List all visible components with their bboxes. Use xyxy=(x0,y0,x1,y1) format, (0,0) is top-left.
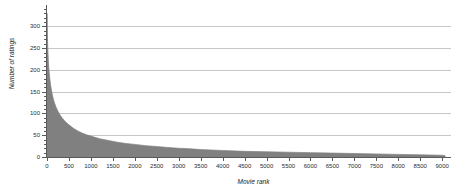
x-tick-4000 xyxy=(223,157,224,161)
x-tick-1000 xyxy=(91,157,92,161)
y-tick-label-250: 250 xyxy=(14,45,40,51)
y-tick-label-300: 300 xyxy=(14,23,40,29)
x-tick-2500 xyxy=(157,157,158,161)
y-tick-label-150: 150 xyxy=(14,89,40,95)
x-tick-2000 xyxy=(135,157,136,161)
x-tick-7500 xyxy=(376,157,377,161)
chart-figure: Number of ratings 050100150200250300 050… xyxy=(0,0,460,196)
x-axis-title: Movie rank xyxy=(0,178,460,185)
x-tick-5000 xyxy=(267,157,268,161)
x-tick-6000 xyxy=(310,157,311,161)
x-tick-3000 xyxy=(179,157,180,161)
x-tick-4500 xyxy=(245,157,246,161)
x-tick-5500 xyxy=(289,157,290,161)
x-tick-9000 xyxy=(442,157,443,161)
x-axis-line xyxy=(47,157,451,158)
y-tick-label-0: 0 xyxy=(14,154,40,160)
x-tick-3500 xyxy=(201,157,202,161)
series-area-number-of-ratings xyxy=(47,9,451,157)
plot-area xyxy=(47,9,451,157)
x-tick-8500 xyxy=(420,157,421,161)
x-tick-500 xyxy=(69,157,70,161)
x-tick-8000 xyxy=(398,157,399,161)
x-tick-7000 xyxy=(354,157,355,161)
x-tick-label-9000: 9000 xyxy=(424,163,460,169)
y-tick-label-100: 100 xyxy=(14,110,40,116)
x-tick-1500 xyxy=(113,157,114,161)
x-tick-6500 xyxy=(332,157,333,161)
y-tick-label-200: 200 xyxy=(14,67,40,73)
x-tick-0 xyxy=(47,157,48,161)
y-tick-label-50: 50 xyxy=(14,132,40,138)
